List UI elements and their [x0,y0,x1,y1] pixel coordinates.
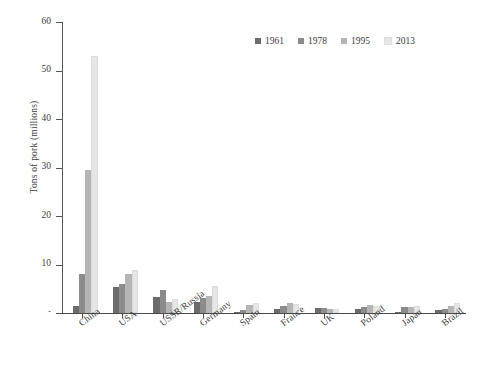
y-tick-mark [56,265,62,266]
y-tick-20: 20 [24,216,62,217]
y-tick-60: 60 [24,22,62,23]
y-tick-mark [56,168,62,169]
y-axis-title: Tons of pork (millions) [29,47,39,247]
y-tick-mark [56,71,62,72]
bar-group [234,22,259,313]
y-tick-mark [56,119,62,120]
bar-group [274,22,299,313]
bar-china-2013 [91,56,97,313]
bar-group [194,22,219,313]
bar-group [395,22,420,313]
y-tick-50: 50 [24,71,62,72]
bar-group [73,22,98,313]
y-tick-40: 40 [24,119,62,120]
y-tick-mark [56,216,62,217]
bar-group [315,22,340,313]
y-tick-label: 10 [42,258,52,268]
bar-group [153,22,178,313]
bar-series-container [63,22,466,313]
y-tick-10: 10 [24,265,62,266]
bar-group [355,22,380,313]
y-tick-mark [56,22,62,23]
bar-group [435,22,460,313]
x-axis-label-uk: UK [319,312,336,328]
y-tick-mark [58,313,62,314]
y-tick-label: 50 [42,64,52,74]
y-tick-label: 30 [42,161,52,171]
pork-production-bar-chart: Tons of pork (millions) 1961197819952013… [0,0,480,378]
bar-group [113,22,138,313]
y-tick-label: - [48,307,51,316]
y-tick-label: 20 [42,210,52,220]
y-tick-0: - [24,313,62,314]
plot-area: -102030405060 ChinaUSAUSSR/RussiaGermany… [62,22,466,313]
y-tick-label: 40 [42,113,52,123]
y-tick-label: 60 [42,16,52,26]
y-tick-30: 30 [24,168,62,169]
bar-usa-2013 [132,270,138,313]
bar-uk-2013 [333,309,339,313]
